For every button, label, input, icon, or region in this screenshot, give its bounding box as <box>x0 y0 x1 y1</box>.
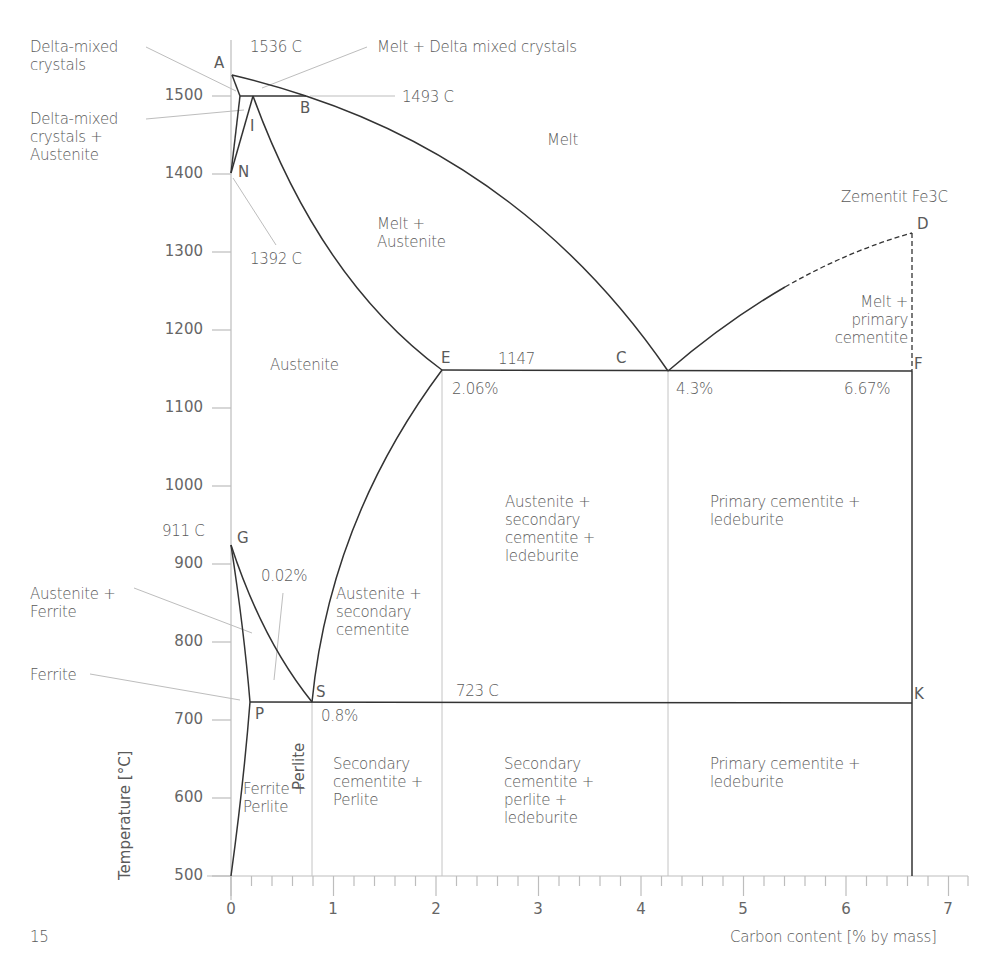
x-tick-marks <box>231 876 968 896</box>
x-tick-6: 6 <box>836 900 856 918</box>
y-tick-marks <box>212 96 231 876</box>
x-tick-3: 3 <box>528 900 548 918</box>
label-0.8pct: 0.8% <box>321 707 358 725</box>
region-primary-cementite-ledeburite-upper: Primary cementite + ledeburite <box>710 493 880 529</box>
label-1536c: 1536 C <box>250 38 302 56</box>
point-C: C <box>616 350 626 366</box>
y-tick-1500: 1500 <box>143 86 203 104</box>
region-melt-delta: Melt + Delta mixed crystals <box>377 38 577 56</box>
region-melt: Melt <box>547 131 578 149</box>
y-tick-800: 800 <box>143 632 203 650</box>
y-tick-1200: 1200 <box>143 320 203 338</box>
x-tick-5: 5 <box>733 900 753 918</box>
x-tick-1: 1 <box>323 900 343 918</box>
y-axis-title: Temperature [°C] <box>116 751 134 880</box>
region-secondary-cementite-perlite: Secondary cementite + Perlite <box>333 755 443 809</box>
x-axis-title: Carbon content [% by mass] <box>730 928 937 946</box>
region-melt-austenite: Melt + Austenite <box>377 215 467 251</box>
point-A: A <box>214 55 224 71</box>
label-zementit-fe3c: Zementit Fe3C <box>841 188 948 206</box>
label-6.67pct: 6.67% <box>844 380 890 398</box>
y-tick-500: 500 <box>143 866 203 884</box>
label-2.06pct: 2.06% <box>452 380 498 398</box>
point-P: P <box>255 706 264 722</box>
label-4.3pct: 4.3% <box>676 380 713 398</box>
label-1392c: 1392 C <box>250 250 302 268</box>
region-secondary-cementite-perlite-ledeburite: Secondary cementite + perlite + ledeburi… <box>504 755 614 827</box>
point-F: F <box>914 356 923 372</box>
label-911c: 911 C <box>162 522 204 540</box>
region-austenite-ferrite: Austenite + Ferrite <box>30 585 140 621</box>
y-tick-600: 600 <box>143 788 203 806</box>
region-austenite: Austenite <box>270 356 339 374</box>
label-0.02pct: 0.02% <box>261 567 307 585</box>
region-austenite-secondary-ledeburite: Austenite + secondary cementite + ledebu… <box>505 493 617 565</box>
y-tick-1100: 1100 <box>143 398 203 416</box>
region-melt-primary-cementite: Melt + primary cementite <box>826 293 908 347</box>
page-number: 15 <box>30 928 49 946</box>
region-ferrite: Ferrite <box>30 666 77 684</box>
x-tick-7: 7 <box>938 900 958 918</box>
point-I: I <box>250 118 254 134</box>
region-delta-mixed-crystals: Delta-mixed crystals <box>30 38 150 74</box>
point-E: E <box>441 350 450 366</box>
y-tick-700: 700 <box>143 710 203 728</box>
point-N: N <box>238 164 249 180</box>
y-tick-900: 900 <box>143 554 203 572</box>
x-tick-0: 0 <box>221 900 241 918</box>
region-ferrite-perlite: Ferrite + Perlite <box>243 780 318 816</box>
region-delta-austenite: Delta-mixed crystals + Austenite <box>30 110 150 164</box>
label-1493c: 1493 C <box>402 88 454 106</box>
x-tick-2: 2 <box>426 900 446 918</box>
x-tick-4: 4 <box>631 900 651 918</box>
y-tick-1400: 1400 <box>143 164 203 182</box>
label-723c: 723 C <box>456 682 498 700</box>
point-S: S <box>316 684 326 700</box>
label-1147: 1147 <box>498 350 535 368</box>
region-primary-cementite-ledeburite-lower: Primary cementite + ledeburite <box>710 755 880 791</box>
y-tick-1300: 1300 <box>143 242 203 260</box>
point-G: G <box>237 530 249 546</box>
point-B: B <box>300 100 310 116</box>
region-austenite-secondary-cementite: Austenite + secondary cementite <box>336 585 446 639</box>
y-tick-1000: 1000 <box>143 476 203 494</box>
point-D: D <box>917 216 929 232</box>
point-K: K <box>914 686 924 702</box>
